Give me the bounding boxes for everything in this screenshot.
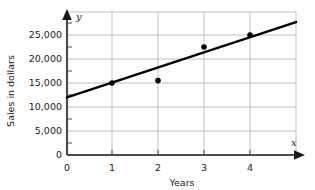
data-point [109,80,115,86]
y-tick-label-15000: 15,000 [29,77,62,88]
data-point [247,32,253,38]
x-tick-label-2: 2 [155,162,161,173]
x-tick-label-0: 0 [64,162,70,173]
x-tick-label-3: 3 [201,162,207,173]
y-tick-label-10000: 10,000 [29,101,62,112]
data-point [201,44,207,50]
data-point [155,78,161,84]
x-axis-tick-labels: 0 1 2 3 4 [64,162,253,173]
y-axis-tick-labels: 0 5,000 10,000 15,000 20,000 25,000 [29,29,62,160]
x-variable-label: x [291,137,297,148]
chart-canvas: 0 5,000 10,000 15,000 20,000 25,000 0 1 … [0,0,315,190]
y-tick-label-0: 0 [56,149,62,160]
y-tick-label-25000: 25,000 [29,29,62,40]
x-axis-title: Years [168,177,194,188]
x-tick-label-4: 4 [247,162,253,173]
y-axis-title: Sales in dollars [5,55,16,127]
y-tick-label-20000: 20,000 [29,53,62,64]
scatter-plot-figure: 0 5,000 10,000 15,000 20,000 25,000 0 1 … [0,0,315,190]
y-tick-label-5000: 5,000 [35,125,62,136]
x-tick-label-1: 1 [109,162,115,173]
y-variable-label: y [75,11,82,22]
